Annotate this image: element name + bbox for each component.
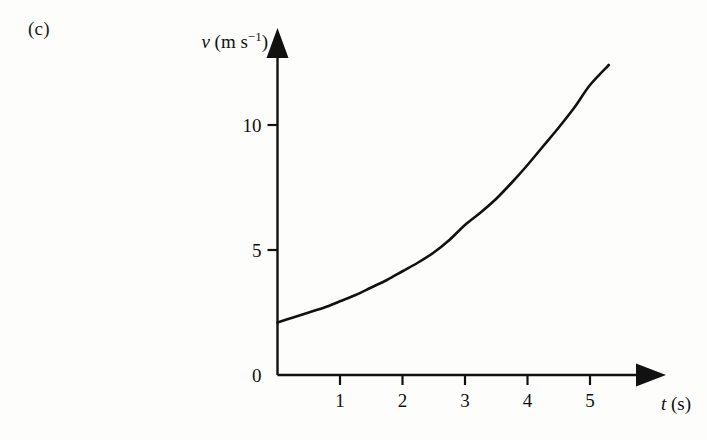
y-axis-symbol: v (201, 31, 214, 52)
y-axis-ticks: 0510 (243, 115, 278, 386)
y-axis-exponent: −1 (248, 29, 262, 44)
x-tick-label: 5 (585, 390, 595, 411)
x-tick-label: 1 (335, 390, 345, 411)
x-axis-units: (s) (671, 393, 691, 415)
x-tick-label: 3 (460, 390, 470, 411)
velocity-curve (278, 65, 609, 323)
y-tick-label: 10 (243, 115, 262, 136)
x-axis-arrowhead (636, 364, 666, 387)
figure-container: (c) 0510 12345 v (m s−1) t (s) (0, 0, 707, 440)
y-tick-label: 0 (252, 365, 262, 386)
y-axis-units-close: ) (262, 31, 268, 53)
x-tick-label: 2 (398, 390, 408, 411)
y-axis-units: (m s (215, 31, 248, 53)
x-axis-ticks: 12345 (335, 375, 595, 411)
x-axis-symbol: t (661, 393, 671, 414)
y-tick-label: 5 (252, 240, 262, 261)
x-tick-label: 4 (523, 390, 533, 411)
y-axis-arrowhead (267, 28, 289, 58)
velocity-time-chart: 0510 12345 v (m s−1) t (s) (0, 0, 707, 440)
x-axis-title: t (s) (661, 393, 691, 415)
y-axis-title: v (m s−1) (201, 29, 268, 54)
